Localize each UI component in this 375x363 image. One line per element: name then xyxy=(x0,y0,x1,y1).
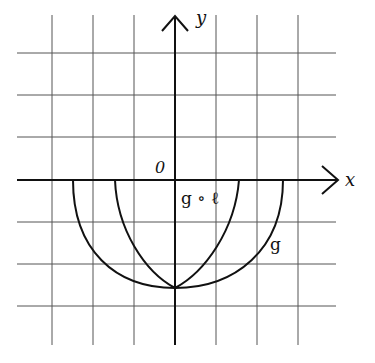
curves xyxy=(73,180,283,288)
axes xyxy=(17,16,338,345)
curve-label-g: g xyxy=(270,234,281,254)
y-axis-label: y xyxy=(195,7,207,28)
x-axis-label: x xyxy=(345,169,355,190)
curve-label-g-compose-l: g ∘ ℓ xyxy=(181,188,219,208)
curve-g xyxy=(73,180,283,288)
origin-label: 0 xyxy=(155,158,165,177)
function-graph: y x 0 g ∘ ℓ g xyxy=(0,0,375,363)
